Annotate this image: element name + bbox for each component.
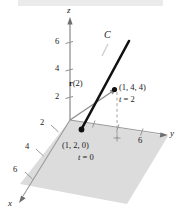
z-tick-label-4: 4 (55, 64, 59, 73)
point-marker-t0 (79, 127, 85, 133)
z-tick-2 (66, 97, 74, 99)
xy-plane (20, 120, 168, 204)
point-coords-t0: (1, 2, 0) (62, 141, 89, 150)
point-marker-t2 (112, 87, 117, 92)
point-coords-t2: (1, 4, 4) (119, 83, 146, 92)
diagram-canvas (0, 0, 181, 217)
vector-arg: (2) (73, 78, 83, 88)
x-tick-label-6: 6 (13, 165, 17, 174)
position-vector-r2 (70, 91, 113, 120)
curve-label-C: C (104, 30, 111, 41)
y-axis-label: y (170, 129, 174, 138)
z-tick-label-2: 2 (55, 92, 59, 101)
x-axis-label: x (8, 199, 12, 208)
point-param-t2: t = 2 (119, 95, 135, 104)
param-value-t2: 2 (130, 94, 134, 104)
x-tick-label-4: 4 (25, 142, 29, 151)
point-param-t0: t = 0 (78, 153, 94, 162)
z-tick-4 (66, 69, 74, 71)
position-vector-label: r(2) (69, 79, 83, 88)
x-tick-2 (51, 125, 59, 132)
x-tick-label-2: 2 (40, 118, 44, 127)
y-tick-label-6: 6 (138, 136, 142, 145)
param-value-t0: 0 (89, 152, 93, 162)
x-axis-arrowhead (19, 196, 26, 204)
x-tick-4 (36, 149, 44, 156)
figure-container: z y x 6 4 2 6 2 4 6 C r(2) (1, 4, 4) t =… (0, 0, 181, 217)
z-axis-label: z (67, 6, 71, 15)
z-axis-arrowhead (67, 17, 72, 25)
curve-label-leader (102, 44, 108, 56)
z-tick-label-6: 6 (55, 37, 59, 46)
z-tick-6 (66, 42, 74, 44)
